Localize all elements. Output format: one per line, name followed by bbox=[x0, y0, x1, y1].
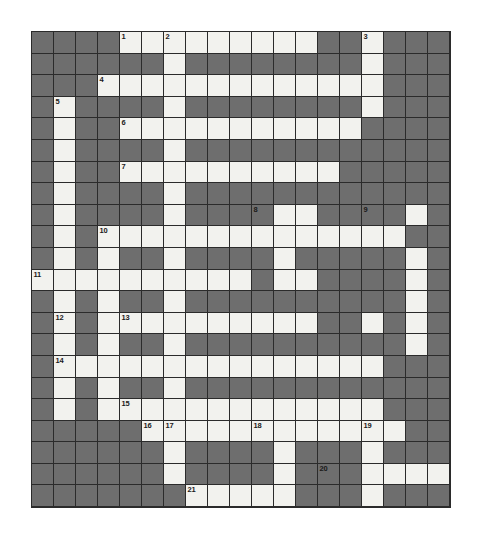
crossword-cell-open[interactable] bbox=[164, 378, 186, 400]
crossword-cell-open[interactable] bbox=[384, 421, 406, 443]
crossword-cell-open[interactable] bbox=[362, 356, 384, 378]
crossword-cell-open[interactable] bbox=[406, 313, 428, 335]
crossword-cell-open[interactable] bbox=[186, 313, 208, 335]
crossword-cell-open[interactable] bbox=[186, 75, 208, 97]
crossword-cell-open[interactable] bbox=[274, 162, 296, 184]
crossword-cell-open[interactable] bbox=[186, 399, 208, 421]
crossword-cell-open[interactable] bbox=[252, 226, 274, 248]
crossword-cell-open[interactable] bbox=[164, 248, 186, 270]
crossword-cell-open[interactable] bbox=[230, 118, 252, 140]
crossword-cell-open[interactable]: 3 bbox=[362, 32, 384, 54]
crossword-cell-open[interactable] bbox=[230, 421, 252, 443]
crossword-cell-open[interactable]: 21 bbox=[186, 485, 208, 507]
crossword-cell-open[interactable] bbox=[208, 226, 230, 248]
crossword-cell-open[interactable] bbox=[296, 226, 318, 248]
crossword-cell-open[interactable]: 2 bbox=[164, 32, 186, 54]
crossword-cell-open[interactable] bbox=[318, 118, 340, 140]
crossword-cell-open[interactable] bbox=[208, 75, 230, 97]
crossword-cell-open[interactable] bbox=[274, 313, 296, 335]
crossword-cell-open[interactable]: 5 bbox=[54, 97, 76, 119]
crossword-cell-open[interactable] bbox=[274, 32, 296, 54]
crossword-cell-open[interactable] bbox=[406, 464, 428, 486]
crossword-grid[interactable]: 123456789101112131415161718192021 bbox=[31, 31, 451, 508]
crossword-cell-open[interactable] bbox=[120, 270, 142, 292]
crossword-cell-open[interactable] bbox=[230, 162, 252, 184]
crossword-cell-open[interactable] bbox=[54, 399, 76, 421]
crossword-cell-open[interactable] bbox=[142, 75, 164, 97]
crossword-cell-open[interactable] bbox=[54, 270, 76, 292]
crossword-cell-open[interactable] bbox=[164, 97, 186, 119]
crossword-cell-open[interactable] bbox=[296, 270, 318, 292]
crossword-cell-open[interactable] bbox=[362, 54, 384, 76]
crossword-cell-open[interactable] bbox=[274, 421, 296, 443]
crossword-cell-open[interactable] bbox=[142, 32, 164, 54]
crossword-cell-open[interactable] bbox=[274, 442, 296, 464]
crossword-cell-open[interactable] bbox=[208, 356, 230, 378]
crossword-cell-open[interactable] bbox=[54, 291, 76, 313]
crossword-cell-open[interactable] bbox=[252, 485, 274, 507]
crossword-cell-open[interactable] bbox=[208, 313, 230, 335]
crossword-cell-open[interactable] bbox=[428, 464, 450, 486]
crossword-cell-open[interactable] bbox=[208, 162, 230, 184]
crossword-cell-open[interactable] bbox=[296, 75, 318, 97]
crossword-cell-open[interactable] bbox=[164, 205, 186, 227]
crossword-cell-open[interactable] bbox=[120, 356, 142, 378]
crossword-cell-open[interactable] bbox=[98, 334, 120, 356]
crossword-cell-open[interactable] bbox=[164, 291, 186, 313]
crossword-cell-open[interactable] bbox=[164, 464, 186, 486]
crossword-cell-open[interactable] bbox=[384, 464, 406, 486]
crossword-cell-open[interactable] bbox=[230, 485, 252, 507]
crossword-cell-open[interactable] bbox=[362, 97, 384, 119]
crossword-cell-open[interactable] bbox=[252, 75, 274, 97]
crossword-cell-open[interactable] bbox=[340, 356, 362, 378]
crossword-cell-open[interactable] bbox=[296, 313, 318, 335]
crossword-cell-open[interactable] bbox=[274, 485, 296, 507]
crossword-cell-open[interactable] bbox=[230, 32, 252, 54]
crossword-cell-open[interactable] bbox=[296, 421, 318, 443]
crossword-cell-open[interactable] bbox=[274, 248, 296, 270]
crossword-cell-open[interactable] bbox=[164, 399, 186, 421]
crossword-cell-open[interactable]: 16 bbox=[142, 421, 164, 443]
crossword-cell-open[interactable] bbox=[230, 270, 252, 292]
crossword-cell-open[interactable] bbox=[362, 464, 384, 486]
crossword-cell-open[interactable] bbox=[274, 226, 296, 248]
crossword-cell-open[interactable] bbox=[406, 248, 428, 270]
crossword-cell-open[interactable] bbox=[274, 205, 296, 227]
crossword-cell-open[interactable] bbox=[164, 140, 186, 162]
crossword-cell-open[interactable]: 19 bbox=[362, 421, 384, 443]
crossword-cell-open[interactable] bbox=[54, 183, 76, 205]
crossword-cell-open[interactable] bbox=[54, 334, 76, 356]
crossword-cell-open[interactable] bbox=[318, 399, 340, 421]
crossword-cell-open[interactable] bbox=[340, 118, 362, 140]
crossword-cell-open[interactable] bbox=[274, 399, 296, 421]
crossword-cell-open[interactable] bbox=[142, 356, 164, 378]
crossword-cell-open[interactable]: 10 bbox=[98, 226, 120, 248]
crossword-cell-open[interactable] bbox=[54, 378, 76, 400]
crossword-cell-open[interactable] bbox=[76, 356, 98, 378]
crossword-cell-open[interactable]: 17 bbox=[164, 421, 186, 443]
crossword-cell-open[interactable] bbox=[362, 399, 384, 421]
crossword-cell-open[interactable] bbox=[318, 421, 340, 443]
crossword-cell-open[interactable] bbox=[164, 183, 186, 205]
crossword-cell-open[interactable] bbox=[274, 270, 296, 292]
crossword-cell-open[interactable] bbox=[98, 248, 120, 270]
crossword-cell-open[interactable] bbox=[164, 226, 186, 248]
crossword-cell-open[interactable] bbox=[340, 75, 362, 97]
crossword-cell-open[interactable] bbox=[252, 32, 274, 54]
crossword-cell-open[interactable] bbox=[186, 356, 208, 378]
crossword-cell-open[interactable]: 18 bbox=[252, 421, 274, 443]
crossword-cell-open[interactable] bbox=[230, 75, 252, 97]
crossword-cell-open[interactable] bbox=[318, 162, 340, 184]
crossword-cell-open[interactable] bbox=[230, 226, 252, 248]
crossword-cell-open[interactable] bbox=[208, 270, 230, 292]
crossword-cell-open[interactable] bbox=[54, 226, 76, 248]
crossword-cell-open[interactable] bbox=[208, 399, 230, 421]
crossword-cell-open[interactable]: 1 bbox=[120, 32, 142, 54]
crossword-cell-open[interactable] bbox=[98, 313, 120, 335]
crossword-cell-open[interactable] bbox=[142, 162, 164, 184]
crossword-cell-open[interactable] bbox=[274, 464, 296, 486]
crossword-cell-open[interactable] bbox=[340, 421, 362, 443]
crossword-cell-open[interactable] bbox=[142, 313, 164, 335]
crossword-cell-open[interactable] bbox=[340, 399, 362, 421]
crossword-cell-open[interactable] bbox=[406, 291, 428, 313]
